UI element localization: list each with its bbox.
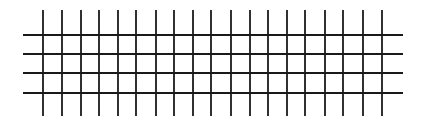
grid-lines: [0, 0, 423, 121]
horizontal-lines: [23, 35, 403, 93]
grid-diagram: [0, 0, 423, 121]
vertical-lines: [43, 10, 382, 116]
